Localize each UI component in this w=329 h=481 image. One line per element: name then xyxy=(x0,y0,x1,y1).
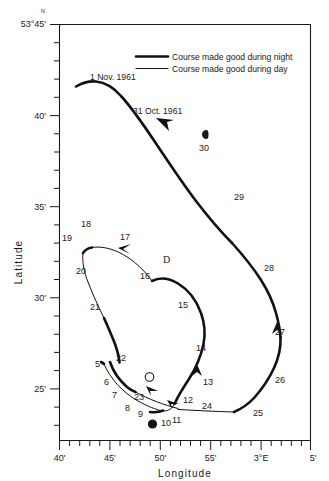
legend-label-night: Course made good during night xyxy=(172,52,293,62)
waypoint-label-15: 15 xyxy=(178,300,188,310)
first-quarter-moon-icon: D xyxy=(163,254,170,265)
x-tick-label-55: 55' xyxy=(205,453,217,463)
waypoint-label-25: 25 xyxy=(253,408,263,418)
waypoint-label-30: 30 xyxy=(199,143,209,153)
ships-track-chart: N 53°45' 40' 35' 30' 25' Latitude xyxy=(0,0,329,481)
waypoint-label-8: 8 xyxy=(125,403,130,413)
y-tick-label-40: 40' xyxy=(34,111,46,121)
y-axis-hemisphere-label: N xyxy=(41,8,45,14)
waypoint-label-19: 19 xyxy=(62,233,72,243)
waypoint-label-10: 10 xyxy=(161,418,171,428)
waypoint-label-28: 28 xyxy=(264,263,274,273)
waypoint-label-23: 23 xyxy=(134,392,144,402)
waypoint-label-24: 24 xyxy=(202,401,212,411)
waypoint-label-12: 12 xyxy=(183,395,193,405)
x-axis-title: Longitude xyxy=(158,468,212,479)
legend-label-day: Course made good during day xyxy=(172,64,288,74)
night-segment-stub-5 xyxy=(101,362,104,364)
x-tick-label-5: 5' xyxy=(310,453,317,463)
y-tick-label-35: 35' xyxy=(34,202,46,212)
y-axis-title: Latitude xyxy=(13,240,24,284)
chart-figure: N 53°45' 40' 35' 30' 25' Latitude xyxy=(0,0,329,481)
waypoint-label-5: 5 xyxy=(95,359,100,369)
x-tick-label-45: 45' xyxy=(104,453,116,463)
waypoint-label-6: 6 xyxy=(104,377,109,387)
new-moon-icon xyxy=(148,419,157,428)
annotation-31-oct-1961: 31 Oct. 1961 xyxy=(133,106,182,116)
waypoint-label-9: 9 xyxy=(138,409,143,419)
waypoint-label-11: 11 xyxy=(172,415,181,425)
waypoint-label-21: 21 xyxy=(90,302,100,312)
x-tick-label-40: 40' xyxy=(54,453,66,463)
waypoint-label-29: 29 xyxy=(234,192,244,202)
waypoint-label-27: 27 xyxy=(275,327,285,337)
waypoint-label-16: 16 xyxy=(140,271,150,281)
waypoint-label-22: 22 xyxy=(116,353,126,363)
waypoint-label-17: 17 xyxy=(120,232,130,242)
x-tick-label-50: 50' xyxy=(154,453,166,463)
x-tick-label-3E: 3°E xyxy=(254,453,269,463)
y-tick-label-25: 25' xyxy=(34,384,46,394)
y-tick-label-30: 30' xyxy=(34,293,46,303)
y-tick-label-53-45: 53°45' xyxy=(21,19,47,29)
waypoint-label-20: 20 xyxy=(76,266,86,276)
waypoint-label-26: 26 xyxy=(275,375,285,385)
waypoint-label-14: 14 xyxy=(196,343,206,353)
annotation-1-nov-1961: 1 Nov. 1961 xyxy=(90,72,136,82)
waypoint-label-7: 7 xyxy=(112,390,117,400)
waypoint-label-18: 18 xyxy=(81,219,91,229)
waypoint-label-13: 13 xyxy=(203,377,213,387)
